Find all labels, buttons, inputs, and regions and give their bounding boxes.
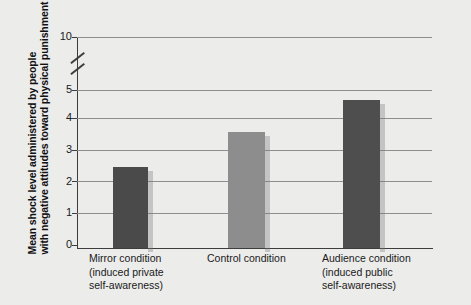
y-tick-label-2: 2 [52, 176, 72, 187]
plot-area [77, 37, 432, 248]
x-label-audience-condition: Audience condition (induced public self-… [322, 252, 411, 293]
y-tick-label-10: 10 [52, 31, 72, 42]
y-axis-title-line-2: with negative attitudes toward physical … [39, 1, 50, 254]
gridline-10 [77, 37, 432, 38]
y-tick-label-3: 3 [52, 144, 72, 155]
x-label-audience-line-2: (induced public [322, 266, 411, 280]
bar-shadow-control [265, 136, 270, 252]
y-tick-label-0: 0 [52, 239, 72, 250]
bar-body-mirror [113, 167, 148, 248]
bar-mirror-condition[interactable] [113, 167, 148, 248]
x-label-audience-line-3: self-awareness) [322, 279, 411, 293]
bar-shadow-mirror [148, 171, 153, 252]
x-label-audience-line-1: Audience condition [322, 252, 411, 266]
bar-audience-condition[interactable] [343, 100, 380, 248]
y-tick-label-5: 5 [52, 84, 72, 95]
x-label-control-condition: Control condition [207, 252, 286, 266]
x-label-mirror-line-1: Mirror condition [89, 252, 164, 266]
gridline-5 [77, 90, 432, 91]
y-tick-label-1: 1 [52, 207, 72, 218]
x-label-mirror-line-3: self-awareness) [89, 279, 164, 293]
bar-shadow-audience [380, 104, 385, 252]
x-label-mirror-line-2: (induced private [89, 266, 164, 280]
bar-control-condition[interactable] [228, 132, 265, 248]
y-axis-title-line-1: Mean shock level administered by people [27, 51, 38, 254]
x-label-mirror-condition: Mirror condition (induced private self-a… [89, 252, 164, 293]
bar-chart: Mean shock level administered by people … [0, 0, 471, 305]
y-axis-tick-labels: 10 5 4 3 2 1 0 [50, 0, 72, 305]
x-axis-tick-labels: Mirror condition (induced private self-a… [77, 252, 457, 304]
x-label-control-line-1: Control condition [207, 252, 286, 266]
bar-body-control [228, 132, 265, 248]
bar-body-audience [343, 100, 380, 248]
y-tick-label-4: 4 [52, 112, 72, 123]
